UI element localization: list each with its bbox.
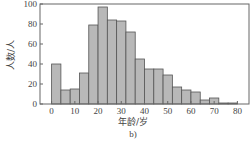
histogram-bar	[154, 69, 163, 104]
histogram-bar	[61, 90, 70, 104]
y-tick-label: 80	[28, 19, 38, 29]
x-tick-label: 40	[140, 106, 150, 116]
histogram-bar	[126, 32, 135, 104]
histogram-bars	[52, 7, 238, 104]
y-tick-label: 40	[28, 59, 38, 69]
histogram-bar	[79, 73, 88, 104]
x-tick-label: 60	[186, 106, 196, 116]
y-tick-label: 100	[24, 0, 38, 9]
histogram-bar	[98, 7, 107, 104]
histogram-bar	[182, 90, 191, 104]
x-tick-label: 80	[233, 106, 243, 116]
y-tick-label: 20	[28, 79, 38, 89]
histogram-bar	[200, 100, 209, 104]
x-tick-label: 20	[94, 106, 104, 116]
histogram-bar	[135, 59, 144, 104]
y-tick-label: 0	[33, 99, 38, 109]
histogram-bar	[163, 75, 172, 104]
histogram-bar	[172, 87, 181, 104]
figure-caption: b)	[129, 129, 137, 139]
histogram-bar	[107, 20, 116, 104]
histogram-bar	[191, 92, 200, 104]
histogram-bar	[145, 69, 154, 104]
histogram-bar	[89, 25, 98, 104]
x-tick-label: 10	[70, 106, 80, 116]
y-axis-label: 人数/人	[5, 40, 16, 70]
histogram-chart: 020406080100 01020304050607080 人数/人 年龄/岁…	[0, 0, 251, 142]
y-tick-label: 60	[28, 39, 38, 49]
histogram-bar	[52, 64, 61, 104]
histogram-bar	[117, 21, 126, 104]
x-tick-label: 70	[210, 106, 220, 116]
x-tick-label: 30	[117, 106, 127, 116]
x-tick-label: 0	[49, 106, 54, 116]
x-tick-label: 50	[163, 106, 173, 116]
x-axis-label: 年龄/岁	[118, 116, 148, 127]
